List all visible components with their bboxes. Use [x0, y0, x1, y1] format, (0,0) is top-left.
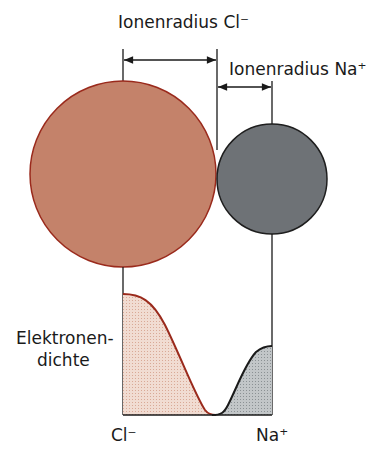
sodium-ion [217, 124, 327, 234]
chloride-radius-label: Ionenradius Cl⁻ [118, 12, 249, 32]
ionic-radius-diagram: Ionenradius Cl⁻ Ionenradius Na⁺ Elektron… [0, 0, 384, 464]
density-label-line1: Elektronen- [16, 328, 114, 348]
axis-label-chloride: Cl⁻ [111, 425, 137, 445]
axis-label-sodium: Na⁺ [256, 425, 288, 445]
sodium-density-area [216, 346, 272, 415]
chloride-ion [30, 81, 216, 267]
sodium-radius-label: Ionenradius Na⁺ [229, 59, 367, 79]
chloride-density-area [123, 294, 216, 415]
density-label-line2: dichte [37, 350, 90, 370]
